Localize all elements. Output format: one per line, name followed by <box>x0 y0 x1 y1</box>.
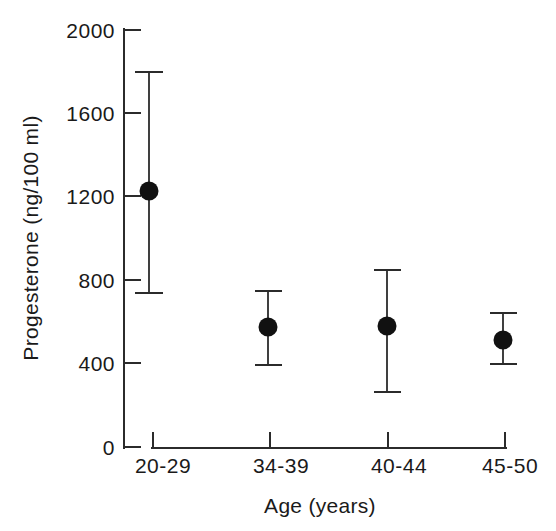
data-marker-20-29 <box>140 182 159 201</box>
chart-canvas: 2000 1600 1200 800 400 0 Progesterone (n… <box>0 0 556 531</box>
data-point-group-40-44 <box>374 270 401 392</box>
data-marker-34-39 <box>259 318 278 337</box>
x-tick-label-40-44: 40-44 <box>371 454 427 477</box>
data-marker-45-50 <box>494 331 513 350</box>
data-marker-40-44 <box>378 317 397 336</box>
y-tick-label-1600: 1600 <box>66 102 115 125</box>
y-tick-label-400: 400 <box>78 352 115 375</box>
x-tick-label-20-29: 20-29 <box>135 454 191 477</box>
x-axis-title: Age (years) <box>264 494 376 517</box>
x-axis: 20-29 34-39 40-44 45-50 Age (years) <box>135 432 538 517</box>
y-tick-label-1200: 1200 <box>66 185 115 208</box>
data-point-group-34-39 <box>255 291 282 365</box>
y-tick-label-0: 0 <box>103 436 115 459</box>
progesterone-age-chart: 2000 1600 1200 800 400 0 Progesterone (n… <box>0 0 556 531</box>
x-tick-label-45-50: 45-50 <box>482 454 538 477</box>
y-tick-label-800: 800 <box>78 269 115 292</box>
data-point-group-45-50 <box>490 313 517 364</box>
y-tick-label-2000: 2000 <box>66 19 115 42</box>
y-axis-title: Progesterone (ng/100 ml) <box>19 115 42 360</box>
y-axis: 2000 1600 1200 800 400 0 Progesterone (n… <box>19 19 141 459</box>
x-tick-label-34-39: 34-39 <box>253 454 309 477</box>
data-point-group-20-29 <box>135 72 163 293</box>
